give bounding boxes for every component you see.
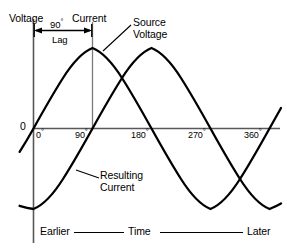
resulting-current-annotation-line2: Current [100,182,134,193]
x-tick-label-90: 90° [75,131,88,141]
x-tick-degree-180: ° [146,127,149,136]
x-tick-value-360: 360 [244,130,259,140]
current-marker-label: Current [72,13,106,24]
lag-word-label: Lag [52,35,68,45]
x-tick-label-0: 0° [36,131,44,141]
y-axis-origin-label: 0 [20,121,26,132]
x-tick-label-180: 180° [131,131,149,141]
lag-degree-symbol: ° [60,17,63,26]
voltage-marker-label: Voltage [9,13,43,24]
x-tick-value-90: 90 [75,130,85,140]
x-tick-degree-270: ° [203,127,206,136]
lag-arrow-head-right [84,27,92,33]
x-tick-degree-0: ° [41,127,44,136]
lag-arrow-head-left [34,27,42,33]
x-tick-value-180: 180 [131,130,146,140]
lag-degree-number: 90 [50,19,60,30]
source-voltage-leader-line [103,25,131,51]
time-axis-later-label: Later [247,226,270,237]
time-axis-center-label: Time [128,226,151,237]
time-axis-earlier-label: Earlier [40,226,70,237]
resulting-current-leader-line [76,170,99,178]
x-tick-label-270: 270° [188,131,206,141]
lag-degree-value: 90° [50,20,63,30]
phase-diagram-figure: Voltage Current 90° Lag Source Voltage R… [0,0,287,251]
source-voltage-annotation-line1: Source [133,17,166,28]
x-tick-degree-360: ° [259,127,262,136]
source-voltage-annotation-line2: Voltage [133,29,167,40]
x-tick-value-270: 270 [188,130,203,140]
x-tick-label-360: 360° [244,131,262,141]
resulting-current-annotation-line1: Resulting [100,170,143,181]
x-tick-degree-90: ° [85,127,88,136]
